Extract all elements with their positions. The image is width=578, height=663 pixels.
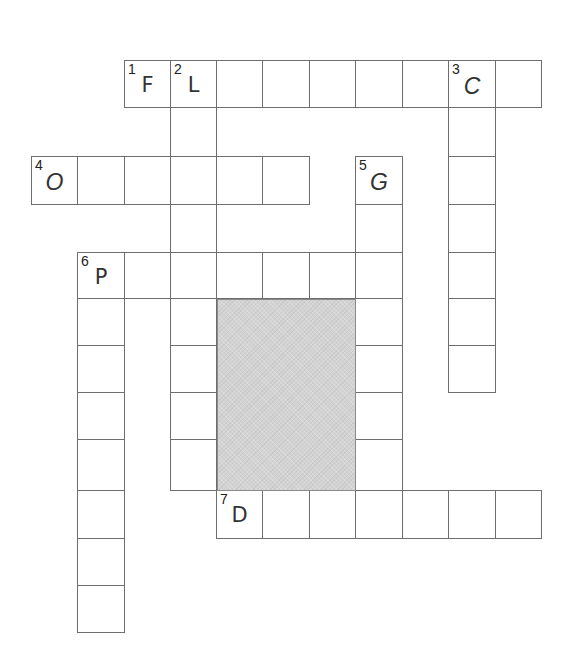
crossword-cell[interactable]: [495, 490, 542, 539]
crossword-cell[interactable]: [216, 156, 263, 205]
crossword-cell[interactable]: [402, 490, 449, 539]
crossword-cell[interactable]: [355, 298, 403, 346]
crossword-cell[interactable]: [355, 204, 403, 253]
shaded-block: [217, 299, 356, 491]
crossword-cell[interactable]: [77, 156, 125, 205]
crossword-cell[interactable]: [448, 204, 496, 253]
given-letter: L: [171, 75, 216, 96]
clue-number: 3: [452, 62, 460, 76]
crossword-cell[interactable]: [355, 490, 403, 539]
crossword-cell[interactable]: [448, 252, 496, 299]
clue-number: 2: [174, 62, 182, 76]
crossword-cell[interactable]: [170, 298, 217, 346]
crossword-cell[interactable]: 6P: [77, 252, 125, 299]
crossword-cell[interactable]: [77, 538, 125, 586]
crossword-cell[interactable]: 1F: [124, 60, 171, 108]
given-letter: P: [78, 267, 124, 288]
crossword-board: 1F2L3C4O5G6P7D: [0, 0, 578, 663]
crossword-cell[interactable]: [262, 490, 310, 539]
crossword-cell[interactable]: [309, 252, 356, 299]
crossword-cell[interactable]: [124, 252, 171, 299]
crossword-cell[interactable]: [448, 298, 496, 346]
crossword-cell[interactable]: [355, 252, 403, 299]
crossword-cell[interactable]: [262, 252, 310, 299]
given-letter: C: [449, 75, 495, 98]
crossword-cell[interactable]: [355, 345, 403, 393]
crossword-cell[interactable]: [355, 392, 403, 440]
crossword-cell[interactable]: [448, 156, 496, 205]
given-letter: O: [32, 171, 77, 194]
crossword-cell[interactable]: [262, 156, 310, 205]
clue-number: 1: [128, 62, 136, 76]
clue-number: 4: [35, 158, 43, 172]
crossword-cell[interactable]: [262, 60, 310, 108]
crossword-cell[interactable]: [355, 60, 403, 108]
crossword-cell[interactable]: [170, 345, 217, 393]
crossword-cell[interactable]: [77, 392, 125, 440]
crossword-cell[interactable]: [355, 439, 403, 491]
given-letter: F: [125, 75, 170, 96]
crossword-cell[interactable]: [170, 252, 217, 299]
crossword-cell[interactable]: 5G: [355, 156, 403, 205]
crossword-cell[interactable]: [170, 156, 217, 205]
crossword-cell[interactable]: [402, 60, 449, 108]
crossword-cell[interactable]: [170, 204, 217, 253]
crossword-cell[interactable]: [448, 345, 496, 393]
crossword-cell[interactable]: [77, 585, 125, 633]
clue-number: 6: [81, 254, 89, 268]
crossword-cell[interactable]: [448, 107, 496, 157]
crossword-cell[interactable]: [170, 392, 217, 440]
crossword-cell[interactable]: 7D: [216, 490, 263, 539]
given-letter: D: [217, 505, 262, 526]
crossword-cell[interactable]: [309, 490, 356, 539]
crossword-cell[interactable]: [309, 60, 356, 108]
crossword-cell[interactable]: 2L: [170, 60, 217, 108]
clue-number: 5: [359, 158, 367, 172]
crossword-cell[interactable]: [216, 252, 263, 299]
crossword-cell[interactable]: 3C: [448, 60, 496, 108]
crossword-cell[interactable]: [77, 490, 125, 539]
crossword-cell[interactable]: [448, 490, 496, 539]
crossword-cell[interactable]: [77, 345, 125, 393]
crossword-cell[interactable]: [170, 107, 217, 157]
crossword-cell[interactable]: 4O: [31, 156, 78, 205]
crossword-cell[interactable]: [495, 60, 542, 108]
crossword-cell[interactable]: [216, 60, 263, 108]
clue-number: 7: [220, 492, 228, 506]
crossword-cell[interactable]: [124, 156, 171, 205]
given-letter: G: [356, 171, 402, 194]
crossword-cell[interactable]: [77, 439, 125, 491]
crossword-cell[interactable]: [170, 439, 217, 491]
crossword-cell[interactable]: [77, 298, 125, 346]
